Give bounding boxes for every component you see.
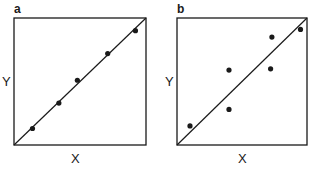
- identity-line: [14, 18, 146, 145]
- data-point: [298, 27, 303, 32]
- y-axis-label-a: Y: [2, 75, 11, 88]
- data-point: [187, 123, 192, 128]
- data-point: [268, 66, 273, 71]
- plot-area-a: [14, 18, 146, 145]
- panel-letter-b: b: [177, 3, 184, 15]
- plot-area-b: [177, 18, 307, 145]
- x-axis-label-b: X: [238, 152, 247, 165]
- panel-letter-a: a: [14, 3, 21, 15]
- y-axis-label-b: Y: [165, 75, 174, 88]
- identity-line: [177, 18, 307, 145]
- data-point: [226, 67, 231, 72]
- panel-b: b Y X: [155, 0, 311, 174]
- data-point: [226, 107, 231, 112]
- panel-a: a Y X: [0, 0, 155, 174]
- data-point: [269, 34, 274, 39]
- x-axis-label-a: X: [71, 152, 80, 165]
